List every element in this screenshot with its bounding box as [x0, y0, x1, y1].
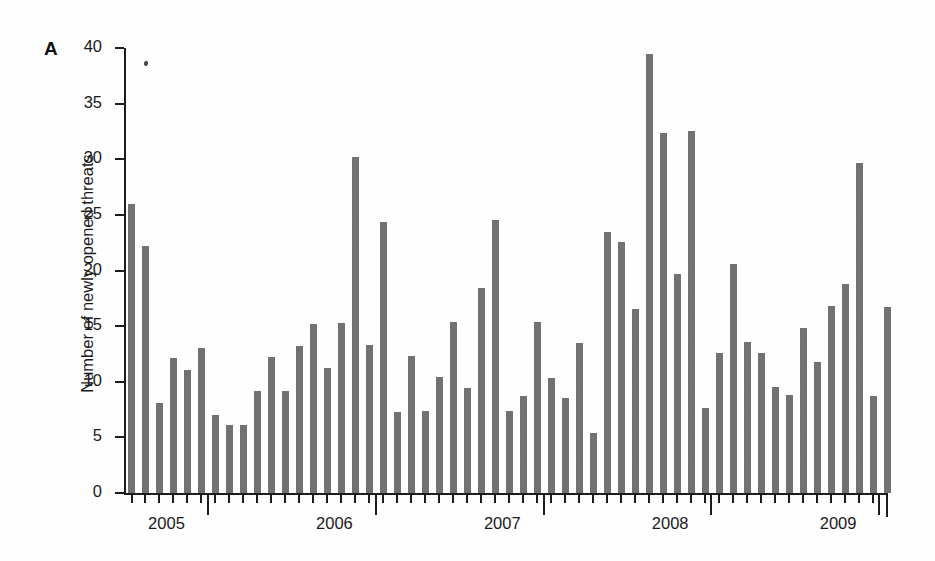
y-axis-tick-label: 20: [84, 260, 102, 279]
y-axis-tick-label: 15: [84, 315, 102, 334]
x-axis-minor-tick: [424, 495, 426, 503]
x-axis-minor-tick: [858, 495, 860, 503]
x-axis-minor-tick: [620, 495, 622, 503]
x-axis-minor-tick: [368, 495, 370, 503]
x-axis-minor-tick: [452, 495, 454, 503]
x-axis-minor-tick: [522, 495, 524, 503]
bar: [688, 131, 695, 493]
x-axis-minor-tick: [284, 495, 286, 503]
x-axis-minor-tick: [354, 495, 356, 503]
figure-panel-a: A Number of newly opened threats 0510152…: [0, 0, 935, 561]
y-axis-tick-label: 40: [84, 37, 102, 56]
bar: [478, 288, 485, 493]
bar: [870, 396, 877, 493]
y-axis-tick-label: 10: [84, 371, 102, 390]
x-axis-minor-tick: [508, 495, 510, 503]
x-axis-minor-tick: [256, 495, 258, 503]
bar: [380, 222, 387, 493]
bar: [268, 357, 275, 493]
y-axis-tick-label: 30: [84, 148, 102, 167]
bar: [422, 411, 429, 493]
x-axis-minor-tick: [410, 495, 412, 503]
bar: [184, 370, 191, 493]
x-axis-minor-tick: [746, 495, 748, 503]
bar: [310, 324, 317, 493]
bar: [828, 306, 835, 493]
x-axis-tick-label: 2006: [316, 514, 353, 533]
x-axis-minor-tick: [690, 495, 692, 503]
x-axis-minor-tick: [396, 495, 398, 503]
bar: [800, 328, 807, 493]
bar: [842, 284, 849, 493]
x-axis-minor-tick: [144, 495, 146, 503]
x-axis-major-tick: [543, 495, 545, 515]
y-axis-tick: 30: [115, 158, 124, 160]
x-axis-minor-tick: [564, 495, 566, 503]
bar: [576, 343, 583, 493]
x-axis-minor-tick: [788, 495, 790, 503]
y-axis-tick-label: 35: [84, 93, 102, 112]
bar: [436, 377, 443, 493]
bar: [646, 54, 653, 493]
x-axis-major-tick: [710, 495, 712, 515]
x-axis-minor-tick: [466, 495, 468, 503]
bar: [198, 348, 205, 493]
x-axis-minor-tick: [536, 495, 538, 503]
x-axis-minor-tick: [634, 495, 636, 503]
x-axis-minor-tick: [438, 495, 440, 503]
bar: [492, 220, 499, 493]
bar: [632, 309, 639, 493]
x-axis-minor-tick: [606, 495, 608, 503]
x-axis-minor-tick: [382, 495, 384, 503]
bar: [814, 362, 821, 493]
x-axis-minor-tick: [242, 495, 244, 503]
bar: [408, 356, 415, 493]
bar: [744, 342, 751, 493]
x-axis-minor-tick: [592, 495, 594, 503]
bar: [772, 387, 779, 493]
bar: [786, 395, 793, 493]
bar: [562, 398, 569, 493]
bar: [450, 322, 457, 493]
bar: [856, 163, 863, 493]
x-axis-minor-tick: [774, 495, 776, 503]
y-axis-tick: 0: [115, 492, 124, 494]
x-axis-minor-tick: [186, 495, 188, 503]
x-axis-tick-label: 2008: [652, 514, 689, 533]
bar: [716, 353, 723, 493]
x-axis-tick-label: 2009: [820, 514, 857, 533]
bar: [506, 411, 513, 493]
x-axis-minor-tick: [844, 495, 846, 503]
bar: [730, 264, 737, 493]
y-axis-tick-label: 5: [93, 426, 102, 445]
x-axis-minor-tick: [326, 495, 328, 503]
bar: [142, 246, 149, 493]
x-axis-minor-tick: [312, 495, 314, 503]
bar: [366, 345, 373, 493]
x-axis-minor-tick: [172, 495, 174, 503]
x-axis-minor-tick: [158, 495, 160, 503]
bar: [128, 204, 135, 493]
bar: [590, 433, 597, 493]
x-axis-major-tick: [878, 495, 880, 515]
y-axis-tick: 15: [115, 325, 124, 327]
panel-label: A: [44, 38, 58, 60]
bar: [618, 242, 625, 493]
y-axis-tick: 20: [115, 270, 124, 272]
bar: [660, 133, 667, 493]
x-axis-minor-tick: [830, 495, 832, 503]
bar: [338, 323, 345, 493]
x-axis-minor-tick: [760, 495, 762, 503]
bar: [240, 425, 247, 493]
x-axis-minor-tick: [802, 495, 804, 503]
x-axis-tick-label: 2005: [148, 514, 185, 533]
x-axis-minor-tick: [704, 495, 706, 503]
y-axis-tick: 10: [115, 381, 124, 383]
x-axis-minor-tick: [578, 495, 580, 503]
bar: [702, 408, 709, 493]
bar: [282, 391, 289, 493]
x-axis-minor-tick: [270, 495, 272, 503]
x-axis-minor-tick: [214, 495, 216, 503]
x-axis-minor-tick: [480, 495, 482, 503]
bar: [170, 358, 177, 493]
